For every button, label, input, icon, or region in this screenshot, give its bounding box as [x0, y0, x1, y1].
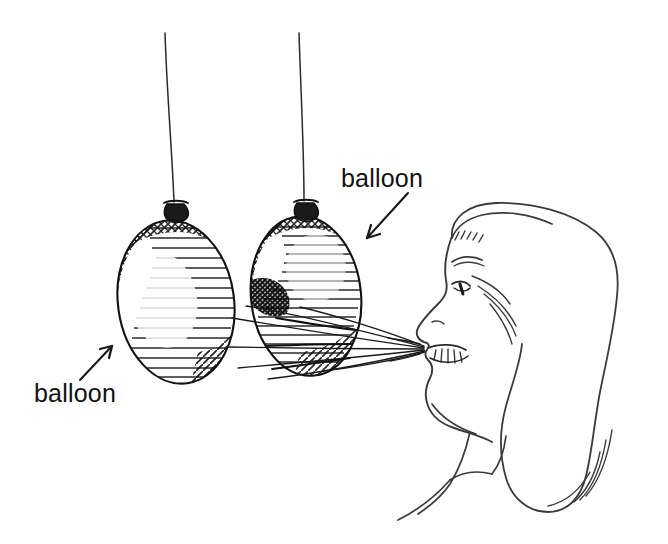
- right-balloon-knot: [294, 200, 318, 222]
- label-balloon-left: balloon: [34, 379, 116, 407]
- right-balloon-highlight: [286, 234, 346, 302]
- left-balloon-knot: [164, 201, 188, 223]
- illustration-canvas: balloon balloon: [0, 0, 668, 544]
- balloon-breath-illustration: balloon balloon: [0, 0, 668, 544]
- label-balloon-right: balloon: [341, 164, 423, 192]
